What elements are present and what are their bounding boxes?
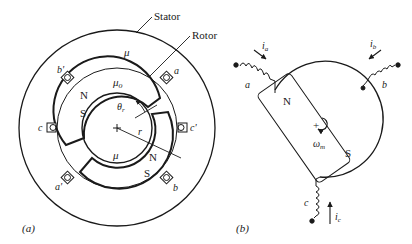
- coil-slot-c-prime: [178, 123, 187, 132]
- label-south: S: [345, 147, 351, 159]
- caption-a: (a): [22, 222, 35, 235]
- label-current-c: ic: [335, 211, 342, 224]
- coil-slot-a: [160, 71, 173, 84]
- label-north: N: [283, 95, 291, 107]
- label-current-b: ib: [370, 38, 377, 51]
- label-winding-c: c: [304, 197, 309, 208]
- label-omega: ωm: [313, 138, 325, 151]
- panel-b-labels: ia ib ic a b c N S + ωm (b): [236, 38, 387, 235]
- label-radius: r: [138, 126, 142, 137]
- label-winding-a: a: [245, 79, 250, 90]
- label-mu-rotor: μ: [112, 149, 119, 161]
- label-mu-stator: μ: [123, 46, 130, 58]
- label-plus: +: [313, 119, 319, 131]
- label-rotor: Rotor: [192, 29, 217, 41]
- label-winding-b: b: [382, 79, 387, 90]
- label-current-a: ia: [262, 40, 269, 53]
- label-coil-c: c: [38, 122, 43, 133]
- label-mu-gap: μo: [112, 76, 123, 90]
- coil-slot-c: [47, 123, 56, 132]
- label-coil-a-prime: a': [55, 181, 63, 192]
- winding-b-coil: [363, 65, 395, 86]
- terminal-c: [310, 219, 314, 223]
- stator-arc: [275, 61, 383, 177]
- terminal-b: [396, 63, 400, 67]
- junction-dot: [361, 86, 365, 90]
- panel-a: [19, 17, 215, 226]
- label-coil-b: b: [173, 182, 178, 193]
- label-coil-a: a: [174, 65, 179, 76]
- panel-b: [234, 50, 400, 224]
- rotor-magnet-lower: [80, 112, 173, 189]
- caption-b: (b): [236, 222, 249, 235]
- rotor-magnet: [257, 72, 352, 183]
- label-south-bottom: S: [144, 167, 150, 179]
- label-north-top: N: [80, 89, 88, 101]
- terminal-a: [234, 63, 238, 67]
- current-b-arrow-icon: [369, 50, 381, 59]
- motor-diagram: Stator Rotor μ μo μ θr r N S N S a b' c …: [0, 0, 412, 244]
- label-south-top: S: [80, 107, 86, 119]
- label-north-bottom: N: [149, 151, 157, 163]
- coil-slot-a-prime: [61, 171, 74, 184]
- rotor-magnet-upper: [53, 56, 160, 145]
- winding-c-coil: [314, 177, 320, 218]
- label-theta: θr: [117, 101, 125, 114]
- stator-leader-line: [136, 17, 152, 33]
- coil-slot-b: [160, 171, 173, 184]
- label-coil-c-prime: c': [190, 122, 197, 133]
- label-stator: Stator: [154, 10, 181, 22]
- label-coil-b-prime: b': [57, 64, 65, 75]
